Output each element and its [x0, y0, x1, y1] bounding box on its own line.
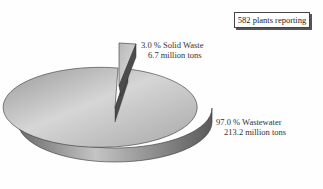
- pie-chart: [0, 0, 323, 189]
- wastewater-slice: [3, 67, 212, 162]
- chart-root: 582 plants reporting 3.0 % Solid Waste 6…: [0, 0, 323, 189]
- wastewater-label: 97.0 % Wastewater 213.2 million tons: [216, 117, 286, 137]
- solid-waste-label: 3.0 % Solid Waste 6.7 million tons: [141, 40, 203, 60]
- wastewater-tons: 213.2 million tons: [216, 127, 286, 137]
- solid-waste-tons: 6.7 million tons: [141, 50, 203, 60]
- solid-waste-percent: 3.0 % Solid Waste: [141, 40, 203, 50]
- plants-reporting-badge: 582 plants reporting: [234, 12, 310, 28]
- wastewater-percent: 97.0 % Wastewater: [216, 117, 286, 127]
